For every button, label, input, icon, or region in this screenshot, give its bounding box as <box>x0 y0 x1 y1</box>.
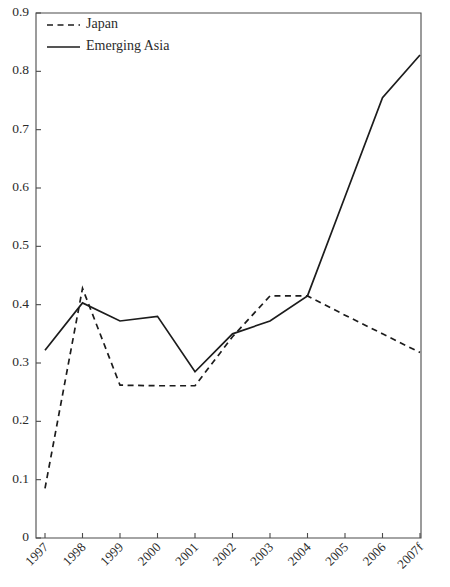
chart-legend: Japan Emerging Asia <box>47 16 170 53</box>
series-line-japan <box>45 288 420 488</box>
y-axis-tick-labels: 00.10.20.30.40.50.60.70.80.9 <box>12 4 29 544</box>
x-tick-label: 2005 <box>322 540 351 569</box>
x-tick-label: 2001 <box>172 540 201 569</box>
y-axis-ticks <box>36 13 41 538</box>
line-chart: 00.10.20.30.40.50.60.70.80.9 19971998199… <box>0 0 450 587</box>
x-tick-label: 2002 <box>210 540 239 569</box>
series-group <box>45 55 420 488</box>
x-tick-label: 2006 <box>360 539 389 568</box>
plot-frame <box>36 13 421 538</box>
y-tick-label: 0.9 <box>12 4 29 19</box>
y-tick-label: 0 <box>22 529 29 544</box>
y-tick-label: 0.8 <box>12 62 29 77</box>
x-axis-ticks <box>45 533 420 538</box>
y-tick-label: 0.3 <box>12 354 29 369</box>
y-tick-label: 0.1 <box>12 471 29 486</box>
x-tick-label: 1998 <box>60 540 89 569</box>
x-tick-label: 2003 <box>247 540 276 569</box>
x-tick-label: 2004 <box>285 539 314 568</box>
y-tick-label: 0.7 <box>12 121 29 136</box>
axis-frame-path <box>36 13 421 538</box>
x-tick-label: 2000 <box>135 540 164 569</box>
x-axis-tick-labels: 1997199819992000200120022003200420052006… <box>22 539 426 572</box>
chart-page: 00.10.20.30.40.50.60.70.80.9 19971998199… <box>0 0 450 587</box>
legend-label-emerging-asia: Emerging Asia <box>86 38 170 53</box>
legend-label-japan: Japan <box>86 16 118 31</box>
x-tick-label: 2007f <box>394 539 427 572</box>
y-tick-label: 0.6 <box>12 179 29 194</box>
y-tick-label: 0.2 <box>12 412 29 427</box>
y-tick-label: 0.5 <box>12 237 29 252</box>
x-tick-label: 1999 <box>97 540 126 569</box>
y-tick-label: 0.4 <box>12 296 29 311</box>
